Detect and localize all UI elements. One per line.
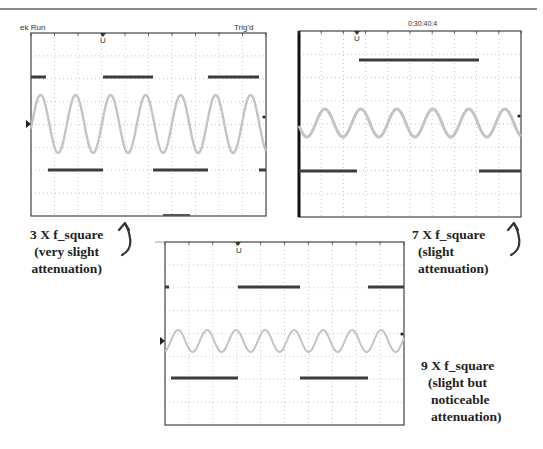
scope-status-left: ek Run (20, 23, 45, 32)
caption-3x-line1: 3 X f_square (30, 226, 103, 243)
caption-3x-line2: (very slight (30, 243, 103, 260)
caption-7x-line2: (slight (412, 243, 489, 260)
trigger-marker: U (100, 36, 106, 45)
caption-9x-line4: attenuation) (421, 408, 502, 425)
trigger-marker: U (236, 246, 242, 255)
caption-7x: 7 X f_square (slight attenuation) (412, 226, 489, 277)
top-rule (0, 8, 537, 10)
caption-9x: 9 X f_square (slight but noticeable atte… (421, 357, 502, 425)
scope-status-time: 0:30:40:4 (408, 20, 437, 27)
caption-3x-line3: attenuation) (30, 260, 103, 277)
caption-9x-line1: 9 X f_square (421, 357, 502, 374)
caption-7x-line1: 7 X f_square (412, 226, 489, 243)
scope-9x-screen: U (155, 238, 410, 430)
caption-9x-line3: noticeable (421, 391, 502, 408)
curved-up-arrow-icon (116, 220, 138, 258)
scope-3x-plot (20, 24, 272, 220)
caption-9x-line2: (slight but (421, 374, 502, 391)
scope-7x-screen: 0:30:40:4 U (296, 22, 526, 220)
caption-3x: 3 X f_square (very slight attenuation) (30, 226, 103, 277)
scope-7x-plot (296, 22, 526, 220)
scope-status-right: Trig'd (234, 23, 253, 32)
scope-3x-screen: ek Run Trig'd U (20, 24, 272, 220)
curved-up-arrow-icon (505, 220, 527, 258)
caption-7x-line3: attenuation) (412, 260, 489, 277)
trigger-marker: U (354, 34, 360, 43)
scope-9x-plot (155, 238, 410, 430)
